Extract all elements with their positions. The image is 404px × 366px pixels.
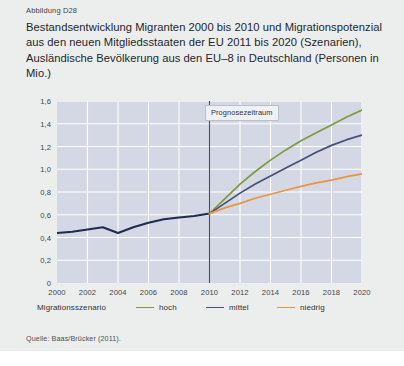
footer-band [0,351,404,366]
x-axis-tick-label: 2006 [140,288,157,297]
x-axis-tick-label: 2018 [323,288,340,297]
x-axis-tick-label: 2014 [262,288,279,297]
legend-title: Migrationsszenario [37,303,106,312]
y-axis-tick-label: 0,6 [25,210,51,219]
legend-label: mittel [229,303,249,312]
x-axis-tick-label: 2012 [231,288,248,297]
x-axis-tick-label: 2000 [48,288,65,297]
legend-swatch-mittel [206,307,224,309]
y-axis-tick-label: 1,6 [25,97,51,106]
source-note: Quelle: Baas/Brücker (2011). [26,334,121,343]
legend-item-niedrig[interactable]: niedrig [277,303,325,312]
y-axis-tick-label: 0,2 [25,256,51,265]
x-axis-tick-label: 2016 [292,288,309,297]
legend-item-hoch[interactable]: hoch [136,303,177,312]
x-axis-tick-label: 2008 [170,288,187,297]
legend-label: hoch [159,303,177,312]
x-axis-tick-label: 2020 [353,288,370,297]
y-axis-tick-label: 1,2 [25,142,51,151]
forecast-period-annotation: Prognosezeitraum [205,105,279,121]
y-axis-tick-label: 0,8 [25,188,51,197]
x-axis-tick-label: 2010 [201,288,218,297]
figure-title: Bestandsentwicklung Migranten 2000 bis 2… [26,20,388,82]
plot-area [57,101,362,283]
y-axis-tick-label: 1,0 [25,165,51,174]
legend-swatch-niedrig [277,307,295,309]
x-axis-tick-label: 2004 [109,288,126,297]
plot-svg [57,101,362,283]
figure-page: Abbildung D28 Bestandsentwicklung Migran… [0,0,404,366]
legend-label: niedrig [300,303,325,312]
y-axis-tick-label: 0 [25,279,51,288]
legend-swatch-hoch [136,307,154,309]
figure-label: Abbildung D28 [26,6,77,15]
legend-item-mittel[interactable]: mittel [206,303,249,312]
chart-legend: Migrationsszenario hochmittelniedrig [0,303,404,319]
y-axis-tick-label: 0,4 [25,233,51,242]
chart-container: 00,20,40,60,81,01,21,41,6 20002002200420… [0,92,404,297]
x-axis-tick-label: 2002 [79,288,96,297]
y-axis-tick-label: 1,4 [25,119,51,128]
